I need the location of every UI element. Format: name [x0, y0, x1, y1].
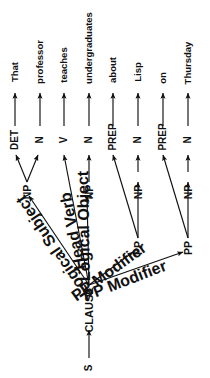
- word-about: about: [108, 57, 118, 83]
- phrase-pp-2: PP: [183, 241, 194, 255]
- word-thursday: Thursday: [183, 42, 193, 85]
- parse-tree-diagram: That professor teaches undergraduates ab…: [0, 0, 210, 378]
- edge-np1-n: [27, 155, 38, 182]
- pos-n-3: N: [133, 136, 143, 143]
- edge-label-logical-object: Logical Object: [75, 171, 93, 282]
- pos-n-2: N: [84, 136, 94, 143]
- word-professor: professor: [35, 40, 45, 84]
- phrase-np-3: NP: [133, 185, 144, 200]
- phrase-np-4: NP: [183, 185, 194, 200]
- pos-n-4: N: [183, 136, 193, 143]
- word-that: That: [10, 62, 20, 82]
- word-teaches: teaches: [59, 47, 69, 82]
- pos-n-1: N: [35, 136, 45, 143]
- edge-np1-det: [16, 155, 27, 182]
- pos-det: DET: [10, 130, 20, 150]
- pos-prep-2: PREP: [158, 123, 168, 150]
- word-on: on: [158, 72, 168, 84]
- pos-prep-1: PREP: [108, 123, 118, 150]
- pos-v: V: [59, 137, 69, 144]
- word-undergraduates: undergraduates: [84, 12, 94, 84]
- word-lisp: Lisp: [133, 62, 143, 82]
- root-node-s: S: [84, 365, 94, 372]
